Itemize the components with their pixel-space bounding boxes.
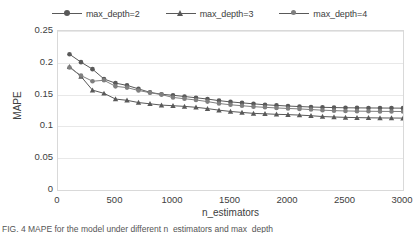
plot-area <box>57 30 404 191</box>
legend-marker-triangle-icon <box>166 9 196 19</box>
data-point-marker <box>90 79 95 84</box>
data-point-marker <box>67 52 72 57</box>
data-point-marker <box>366 109 371 114</box>
chart-legend: max_depth=2 max_depth=3 max_depth=4 <box>0 6 419 22</box>
y-tick-label: 0.2 <box>1 57 53 67</box>
x-tick-label: 1500 <box>210 194 250 205</box>
data-point-marker <box>240 103 245 108</box>
figure-container: max_depth=2 max_depth=3 max_depth=4 00.0… <box>0 0 419 233</box>
data-point-marker <box>102 78 107 83</box>
data-point-marker <box>389 109 394 114</box>
data-point-marker <box>343 109 348 114</box>
data-point-marker <box>194 98 199 103</box>
x-axis-title: n_estimators <box>57 207 404 218</box>
series-line-2 <box>70 68 404 112</box>
y-tick-label: 0.05 <box>1 152 53 162</box>
data-point-marker <box>113 84 118 89</box>
data-point-marker <box>159 92 164 97</box>
data-point-marker <box>297 107 302 112</box>
data-point-marker <box>355 109 360 114</box>
data-point-marker <box>401 109 403 114</box>
data-point-marker <box>148 90 153 95</box>
data-point-marker <box>263 105 268 110</box>
data-point-marker <box>136 88 141 93</box>
data-point-marker <box>125 85 130 90</box>
y-tick-label: 0.1 <box>1 120 53 130</box>
data-point-marker <box>251 104 256 109</box>
data-point-marker <box>286 106 291 111</box>
legend-item-0[interactable]: max_depth=2 <box>52 9 140 19</box>
data-point-marker <box>182 96 187 101</box>
y-tick-label: 0.25 <box>1 25 53 35</box>
series-line-1 <box>70 67 404 119</box>
data-point-marker <box>171 95 176 100</box>
legend-marker-circle-alt-icon <box>279 9 309 19</box>
data-point-marker <box>320 108 325 113</box>
data-point-marker <box>79 73 84 78</box>
series-line-0 <box>70 54 404 108</box>
y-tick-label: 0 <box>1 184 53 194</box>
x-tick-label: 0 <box>37 194 77 205</box>
data-point-marker <box>309 107 314 112</box>
legend-label-0: max_depth=2 <box>86 9 140 19</box>
legend-item-2[interactable]: max_depth=4 <box>279 9 367 19</box>
data-point-marker <box>90 67 95 72</box>
x-tick-label: 2500 <box>325 194 365 205</box>
data-point-marker <box>274 106 279 111</box>
x-tick-label: 3000 <box>382 194 419 205</box>
x-tick-label: 500 <box>95 194 135 205</box>
figure-caption: FIG. 4 MAPE for the model under differen… <box>2 224 419 233</box>
x-tick-label: 2000 <box>267 194 307 205</box>
legend-label-2: max_depth=4 <box>313 9 367 19</box>
data-point-marker <box>205 99 210 104</box>
data-point-marker <box>217 101 222 106</box>
legend-item-1[interactable]: max_depth=3 <box>166 9 254 19</box>
data-point-marker <box>378 109 383 114</box>
data-point-marker <box>228 102 233 107</box>
y-axis-title: MAPE <box>12 76 23 136</box>
data-point-marker <box>79 60 84 65</box>
x-tick-label: 1000 <box>152 194 192 205</box>
legend-marker-circle-icon <box>52 9 82 19</box>
data-point-marker <box>332 108 337 113</box>
y-tick-label: 0.15 <box>1 89 53 99</box>
data-point-marker <box>67 65 72 70</box>
x-axis-tick-labels: 050010001500200025003000 <box>0 194 419 206</box>
chart-series-svg <box>58 31 403 190</box>
legend-label-1: max_depth=3 <box>200 9 254 19</box>
